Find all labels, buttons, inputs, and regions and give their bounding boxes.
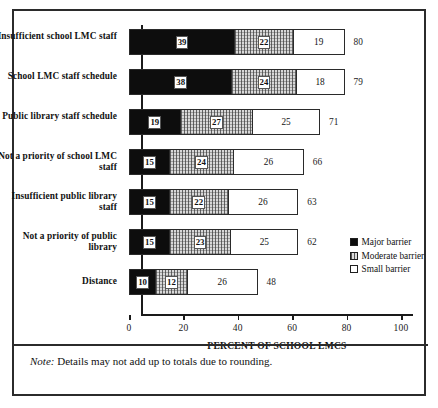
x-tick-label-40: 40 [223,323,253,333]
bar-row: Insufficient public library staff1522266… [14,189,428,215]
category-label: School LMC staff schedule [0,71,117,83]
bar-segment-moderate[interactable]: 22 [169,189,229,215]
x-tick-80 [347,315,349,320]
bar-segment-value: 15 [143,196,156,209]
bar-segment-value: 22 [258,36,271,49]
figure-panel: 020406080100 PERCENT OF SCHOOL LMCS Insu… [0,0,438,408]
note-text: Details may not add up to totals due to … [54,355,272,367]
bar-row: Insufficient school LMC staff39221980 [14,29,428,55]
bar-segment-major[interactable]: 15 [129,189,170,215]
stacked-bar[interactable]: 152426 [129,149,304,175]
bar-segment-major[interactable]: 19 [129,109,181,135]
bar-segment-value: 24 [258,76,271,89]
x-tick-label-20: 20 [168,323,198,333]
bar-segment-value: 39 [176,36,189,49]
category-label: Not a priority of school LMC staff [0,151,117,174]
plot-area: 020406080100 PERCENT OF SCHOOL LMCS Insu… [14,11,428,398]
category-label: Not a priority of public library [0,231,117,254]
x-tick-label-80: 80 [332,323,362,333]
x-tick-40 [238,315,240,320]
stacked-bar[interactable]: 392219 [129,29,345,55]
stacked-bar[interactable]: 152226 [129,189,298,215]
figure-note: Note: Details may not add up to totals d… [30,355,272,367]
bar-segment-value: 12 [165,276,178,289]
bar-segment-major[interactable]: 10 [129,269,156,295]
x-tick-20 [183,315,185,320]
legend-swatch-major-icon [350,238,358,246]
stacked-bar[interactable]: 101226 [129,269,258,295]
x-tick-100 [401,315,403,320]
bar-total-label: 62 [307,229,316,255]
bar-segment-small[interactable]: 25 [252,109,320,135]
bar-segment-small[interactable]: 26 [228,189,299,215]
bar-segment-value: 25 [281,117,290,128]
x-tick-0 [129,315,131,320]
bar-total-label: 63 [307,189,316,215]
bar-total-label: 71 [329,109,338,135]
stacked-bar[interactable]: 192725 [129,109,320,135]
x-tick-label-0: 0 [114,323,144,333]
figure-border: 020406080100 PERCENT OF SCHOOL LMCS Insu… [12,9,426,396]
bar-total-label: 79 [354,69,363,95]
bar-segment-value: 26 [258,197,267,208]
legend-label-moderate: Moderate barrier [362,251,425,261]
category-label: Insufficient school LMC staff [0,31,117,43]
bar-row: Not a priority of school LMC staff152426… [14,149,428,175]
x-axis-title: PERCENT OF SCHOOL LMCS [141,341,413,351]
bar-segment-value: 22 [192,196,205,209]
stacked-bar[interactable]: 382418 [129,69,345,95]
legend-label-major: Major barrier [362,237,412,247]
x-tick-label-100: 100 [386,323,416,333]
legend-item-major: Major barrier [350,237,424,247]
category-label: Public library staff schedule [0,111,117,123]
x-tick-60 [292,315,294,320]
bar-segment-value: 24 [195,156,208,169]
bar-segment-value: 18 [315,77,324,88]
legend-label-small: Small barrier [362,264,411,274]
bar-segment-moderate[interactable]: 22 [234,29,294,55]
bar-segment-small[interactable]: 25 [230,229,298,255]
bar-segment-small[interactable]: 26 [187,269,258,295]
stacked-bar[interactable]: 152325 [129,229,298,255]
bar-segment-value: 10 [136,276,149,289]
chart-legend: Major barrier Moderate barrier Small bar… [350,237,424,278]
legend-swatch-small-icon [350,265,358,273]
bar-segment-small[interactable]: 18 [296,69,345,95]
x-tick-label-60: 60 [277,323,307,333]
bar-total-label: 48 [267,269,276,295]
bar-segment-moderate[interactable]: 27 [180,109,253,135]
bar-row: Public library staff schedule19272571 [14,109,428,135]
note-divider [14,344,428,346]
bar-segment-value: 26 [264,157,273,168]
bar-segment-small[interactable]: 26 [233,149,304,175]
bar-segment-value: 19 [314,37,323,48]
x-axis-line [141,314,413,316]
bar-segment-major[interactable]: 39 [129,29,235,55]
bar-segment-value: 19 [148,116,161,129]
bar-segment-moderate[interactable]: 12 [155,269,188,295]
note-prefix: Note: [30,355,54,367]
bar-segment-major[interactable]: 15 [129,149,170,175]
bar-row: School LMC staff schedule38241879 [14,69,428,95]
bar-segment-major[interactable]: 38 [129,69,232,95]
category-label: Distance [0,276,117,288]
bar-segment-moderate[interactable]: 24 [169,149,234,175]
bar-total-label: 66 [313,149,322,175]
bar-segment-small[interactable]: 19 [293,29,345,55]
bar-segment-value: 15 [143,236,156,249]
bar-segment-major[interactable]: 15 [129,229,170,255]
category-label: Insufficient public library staff [0,191,117,214]
bar-total-label: 80 [354,29,363,55]
legend-swatch-moderate-icon [350,252,358,260]
bar-segment-value: 38 [174,76,187,89]
bar-segment-value: 15 [143,156,156,169]
legend-item-small: Small barrier [350,264,424,274]
legend-item-moderate: Moderate barrier [350,251,424,261]
bar-segment-value: 26 [218,277,227,288]
bar-segment-moderate[interactable]: 24 [231,69,296,95]
bar-segment-value: 25 [260,237,269,248]
bar-segment-moderate[interactable]: 23 [169,229,232,255]
bar-segment-value: 27 [210,116,223,129]
bar-segment-value: 23 [194,236,207,249]
